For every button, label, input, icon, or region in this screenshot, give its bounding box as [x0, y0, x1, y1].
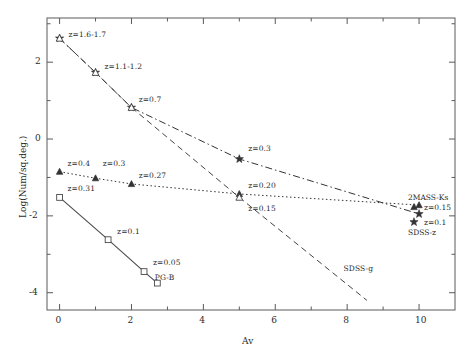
series-2mass-ks: [56, 168, 422, 207]
marker-triangle-filled: [416, 202, 422, 208]
y-tick-label: 0: [35, 133, 41, 143]
point-annotation: PG-B: [155, 273, 175, 282]
point-annotation: z=0.3: [103, 159, 126, 168]
point-annotation: z=0.31: [67, 184, 95, 193]
legend-marker-star: [410, 218, 418, 226]
point-annotation: z=0.4: [67, 159, 90, 168]
point-annotation: z=1.1-1.2: [105, 62, 143, 71]
series-line: [60, 38, 367, 300]
marker-triangle-filled: [92, 175, 98, 181]
y-tick-label: -2: [29, 210, 38, 220]
y-tick-label: 2: [35, 56, 41, 66]
x-tick-label: 8: [343, 315, 349, 325]
x-tick-label: 10: [415, 315, 426, 325]
legend-series-label: SDSS-z: [408, 228, 436, 237]
x-tick-label: 0: [56, 315, 62, 325]
legend-redshift-label: z=0.1: [424, 218, 446, 227]
series-pg-b: [57, 195, 161, 286]
chart-figure: 024681020-2-4AvLog(Num/sq.deg.)z=1.6-1.7…: [0, 0, 476, 359]
marker-star: [235, 155, 243, 163]
legend-series-label: 2MASS-Ks: [408, 193, 448, 202]
x-tick-label: 4: [199, 315, 205, 325]
x-tick-label: 2: [127, 315, 133, 325]
x-axis-title: Av: [242, 336, 253, 346]
point-annotation: z=0.3: [248, 144, 271, 153]
point-annotation: z=0.7: [139, 95, 162, 104]
point-annotation: z=0.20: [248, 181, 276, 190]
marker-star: [410, 218, 418, 226]
marker-square-open: [57, 195, 63, 201]
point-annotation: z=0.05: [153, 258, 181, 267]
point-annotation: SDSS-g: [344, 264, 374, 273]
plot-canvas: [0, 0, 476, 359]
marker-triangle-filled: [56, 168, 62, 174]
x-tick-label: 6: [271, 315, 277, 325]
marker-star: [415, 210, 423, 218]
point-annotation: z=1.6-1.7: [69, 30, 107, 39]
y-axis-title: Log(Num/sq.deg.): [18, 136, 28, 218]
marker-square-open: [105, 237, 111, 243]
point-annotation: z=0.1: [117, 227, 140, 236]
legend-redshift-label: z=0.15: [424, 203, 451, 212]
y-tick-label: -4: [29, 287, 38, 297]
point-annotation: z=0.15: [248, 204, 276, 213]
point-annotation: z=0.27: [139, 171, 167, 180]
marker-square-open: [141, 269, 147, 275]
marker-triangle-filled: [128, 181, 134, 187]
